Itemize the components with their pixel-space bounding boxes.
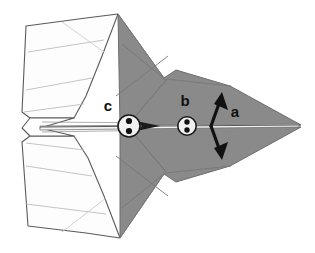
label-b: b [180,92,189,109]
marker-c-dot-bottom [126,128,132,134]
marker-b-dot-bottom [184,127,189,132]
marker-b [178,117,196,135]
marker-c [118,115,140,137]
marker-b-dot-top [184,119,189,124]
airplane-illustration: c b a [0,0,315,253]
marker-c-dot-top [126,118,132,124]
label-c: c [104,97,112,114]
label-a: a [231,103,240,120]
paper-airplane-figure: c b a [0,0,315,253]
